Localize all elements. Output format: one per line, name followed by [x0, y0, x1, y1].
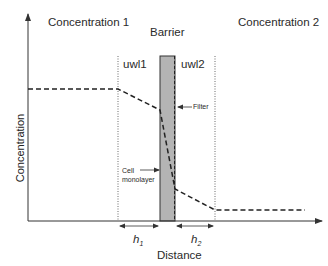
label-uwl2: uwl2 — [181, 58, 205, 70]
label-filter: Filter — [193, 102, 209, 111]
label-concentration-2: Concentration 2 — [238, 16, 319, 28]
h1-sub: 1 — [139, 240, 143, 247]
barrier-rect — [160, 56, 175, 221]
diagram-canvas — [0, 0, 328, 266]
h2-sub: 2 — [197, 240, 201, 247]
label-concentration-1: Concentration 1 — [48, 16, 129, 28]
label-h1: h1 — [133, 233, 143, 247]
label-monolayer: monolayer — [122, 175, 155, 184]
label-uwl1: uwl1 — [123, 58, 147, 70]
label-barrier: Barrier — [150, 26, 185, 38]
y-axis-label: Concentration — [14, 108, 26, 188]
label-cell: Cell — [122, 166, 134, 175]
label-h2: h2 — [191, 233, 201, 247]
x-axis-label: Distance — [157, 249, 202, 261]
